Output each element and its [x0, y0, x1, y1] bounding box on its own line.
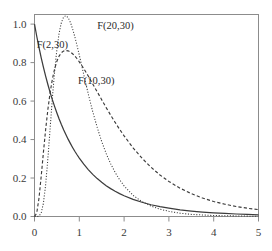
annotation-f230: F(2,30) [37, 39, 69, 51]
x-tick-label: 1 [77, 226, 83, 238]
figure-root: 0.00.20.40.60.81.0 012345 F(2,30)F(10,30… [0, 0, 272, 251]
x-tick-label: 3 [166, 226, 172, 238]
y-tick-label: 0.6 [13, 95, 27, 107]
x-tick-label: 2 [121, 226, 127, 238]
annotation-f2030: F(20,30) [97, 20, 134, 32]
annotation-f1030: F(10,30) [78, 75, 115, 87]
y-tick-label: 0.0 [13, 210, 27, 222]
f-distribution-pdf-chart: 0.00.20.40.60.81.0 012345 F(2,30)F(10,30… [0, 0, 272, 251]
y-tick-label: 1.0 [13, 18, 27, 30]
x-tick-label: 5 [256, 226, 262, 238]
y-tick-label: 0.2 [13, 172, 27, 184]
x-tick-label: 4 [211, 226, 217, 238]
y-tick-label: 0.8 [13, 56, 27, 68]
x-tick-label: 0 [32, 226, 38, 238]
y-tick-label: 0.4 [13, 133, 27, 145]
